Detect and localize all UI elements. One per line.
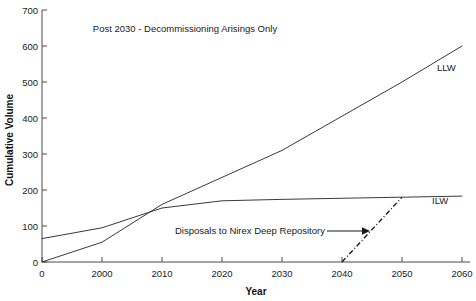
y-tick-label: 0 <box>33 257 38 268</box>
series-label-ilw: ILW <box>432 195 448 206</box>
arrowhead-icon <box>362 227 370 235</box>
x-axis-title: Year <box>245 286 266 297</box>
x-axis-ticks <box>42 257 462 262</box>
y-tick-label: 500 <box>22 77 38 88</box>
annotation-arrow <box>327 227 370 235</box>
x-tick-label: 2020 <box>211 268 232 279</box>
x-tick-label: 2050 <box>391 268 412 279</box>
chart-figure: 700 600 500 400 300 200 100 0 0 2000 201… <box>0 0 476 301</box>
y-tick-label: 300 <box>22 149 38 160</box>
y-tick-label: 700 <box>22 5 38 16</box>
y-axis-title: Cumulative Volume <box>4 94 15 186</box>
series-label-llw: LLW <box>437 62 456 73</box>
chart-title: Post 2030 - Decommissioning Arisings Onl… <box>93 23 278 34</box>
x-tick-label: 2010 <box>151 268 172 279</box>
y-axis-tick-labels: 700 600 500 400 300 200 100 0 <box>22 5 38 268</box>
x-tick-label: 2040 <box>331 268 352 279</box>
y-axis-ticks <box>42 10 47 262</box>
x-tick-label: 2030 <box>271 268 292 279</box>
annotation-label-nirex: Disposals to Nirex Deep Repository <box>175 225 325 236</box>
y-tick-label: 600 <box>22 41 38 52</box>
x-axis-tick-labels: 0 2000 2010 2020 2030 2040 2050 2060 <box>39 268 472 279</box>
y-tick-label: 100 <box>22 221 38 232</box>
x-tick-label: 0 <box>39 268 44 279</box>
y-tick-label: 200 <box>22 185 38 196</box>
x-tick-label: 2000 <box>91 268 112 279</box>
chart-canvas: 700 600 500 400 300 200 100 0 0 2000 201… <box>0 0 476 301</box>
x-tick-label: 2060 <box>451 268 472 279</box>
y-tick-label: 400 <box>22 113 38 124</box>
series-line-nirex-repository <box>342 197 402 262</box>
